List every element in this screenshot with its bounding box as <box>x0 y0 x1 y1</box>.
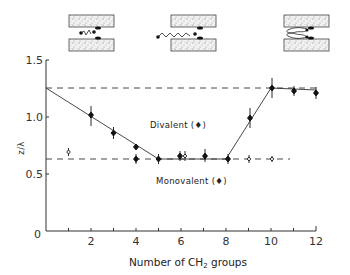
x-axis: 2 4 6 8 10 12 Number of CH2 groups <box>46 226 323 270</box>
chart-figure: 1.5 1.0 0.5 0 z/λ 2 4 6 8 10 12 Number o… <box>0 0 350 275</box>
svg-text:8: 8 <box>223 235 230 248</box>
monovalent-series <box>67 148 274 163</box>
divalent-label: Divalent (♦) <box>150 120 206 130</box>
y-tick-1.0: 1.0 <box>26 111 44 124</box>
y-axis-label: z/λ <box>16 141 26 154</box>
y-axis: 1.5 1.0 0.5 0 z/λ <box>16 54 49 241</box>
svg-text:6: 6 <box>178 235 185 248</box>
x-axis-label: Number of CH2 groups <box>129 256 247 270</box>
monovalent-label: Monovalent (♦) <box>156 176 227 186</box>
y-tick-0: 0 <box>34 228 41 241</box>
schematic-short-chain <box>69 15 114 51</box>
y-tick-1.5: 1.5 <box>26 54 44 67</box>
schematic-extended-chain <box>156 15 216 51</box>
svg-text:2: 2 <box>88 235 95 248</box>
schematic-folded-chain <box>284 15 329 51</box>
svg-text:12: 12 <box>309 235 323 248</box>
svg-text:4: 4 <box>133 235 140 248</box>
y-tick-0.5: 0.5 <box>26 168 44 181</box>
svg-text:10: 10 <box>264 235 278 248</box>
